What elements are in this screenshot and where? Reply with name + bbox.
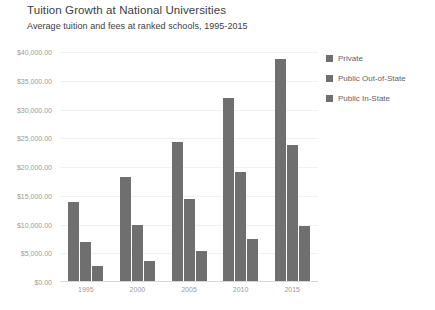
- bar-group: [68, 52, 103, 282]
- bar[interactable]: [172, 142, 183, 282]
- bar[interactable]: [299, 226, 310, 282]
- bar[interactable]: [287, 145, 298, 282]
- y-axis-tick-label: $35,000.00: [17, 77, 52, 84]
- bar[interactable]: [92, 266, 103, 282]
- legend-item-label: Private: [338, 54, 363, 63]
- bar[interactable]: [120, 177, 131, 282]
- x-axis: 19952000200520102015: [60, 286, 318, 300]
- x-axis-tick-label: 2000: [130, 286, 146, 293]
- legend-item-label: Public Out-of-State: [338, 74, 406, 83]
- x-axis-line: [60, 281, 318, 282]
- bar-group: [223, 52, 258, 282]
- chart-legend: PrivatePublic Out-of-StatePublic In-Stat…: [326, 48, 434, 108]
- y-axis-tick-label: $20,000.00: [17, 164, 52, 171]
- legend-item-label: Public In-State: [338, 94, 390, 103]
- y-axis-tick-label: $10,000.00: [17, 221, 52, 228]
- bar[interactable]: [144, 261, 155, 282]
- chart-subtitle: Average tuition and fees at ranked schoo…: [27, 21, 248, 31]
- legend-swatch-icon: [326, 95, 333, 102]
- y-axis: $0.00$5,000.00$10,000.00$15,000.00$20,00…: [0, 52, 56, 282]
- y-axis-tick-label: $25,000.00: [17, 135, 52, 142]
- x-axis-tick-label: 2005: [181, 286, 197, 293]
- bar[interactable]: [196, 251, 207, 282]
- bar-group: [172, 52, 207, 282]
- bar[interactable]: [235, 172, 246, 282]
- legend-item[interactable]: Public Out-of-State: [326, 68, 434, 88]
- bar[interactable]: [275, 59, 286, 282]
- y-axis-tick-label: $0.00: [34, 279, 52, 286]
- bar[interactable]: [80, 242, 91, 282]
- y-axis-tick-label: $30,000.00: [17, 106, 52, 113]
- bar[interactable]: [247, 239, 258, 282]
- bar-group: [120, 52, 155, 282]
- plot-area: [60, 52, 318, 282]
- y-axis-tick-label: $40,000.00: [17, 49, 52, 56]
- bar[interactable]: [132, 225, 143, 283]
- legend-swatch-icon: [326, 75, 333, 82]
- chart-container: Tuition Growth at National Universities …: [0, 0, 435, 310]
- chart-title: Tuition Growth at National Universities: [27, 4, 226, 16]
- legend-item[interactable]: Public In-State: [326, 88, 434, 108]
- bar[interactable]: [68, 202, 79, 283]
- y-axis-tick-label: $15,000.00: [17, 192, 52, 199]
- x-axis-tick-label: 2015: [284, 286, 300, 293]
- bar-group: [275, 52, 310, 282]
- legend-swatch-icon: [326, 55, 333, 62]
- x-axis-tick-label: 2010: [233, 286, 249, 293]
- y-axis-tick-label: $5,000.00: [21, 250, 52, 257]
- bar[interactable]: [223, 98, 234, 282]
- x-axis-tick-label: 1995: [78, 286, 94, 293]
- legend-item[interactable]: Private: [326, 48, 434, 68]
- bar[interactable]: [184, 199, 195, 282]
